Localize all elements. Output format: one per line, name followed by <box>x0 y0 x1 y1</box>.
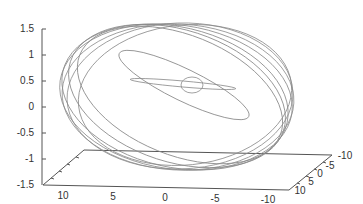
z-tick-label: 0 <box>28 101 34 112</box>
y-tick-label: -5 <box>326 160 335 171</box>
z-tick-label: -1.5 <box>17 179 35 190</box>
curve-loop <box>112 39 255 131</box>
x-tick-label: -10 <box>261 194 276 204</box>
z-tick-label: 1.5 <box>20 23 34 34</box>
y-tick-label: 10 <box>294 185 306 196</box>
y-axis-labels: 10 5 0 -5 -10 <box>294 150 352 196</box>
curve-loop <box>181 77 203 93</box>
x-axis-labels: 10 5 0 -5 -10 <box>57 190 275 204</box>
z-tick-label: 1 <box>28 49 34 60</box>
curve-loop <box>50 0 304 193</box>
x-tick-label: -5 <box>211 193 220 204</box>
x-tick-label: 0 <box>162 192 168 203</box>
x-tick-label: 10 <box>57 190 69 201</box>
3d-plot: 1.5 1 0.5 0 -0.5 -1 -1.5 10 5 0 -5 -10 1… <box>0 0 363 204</box>
y-tick-label: 5 <box>308 176 314 187</box>
curve-loop <box>50 9 302 184</box>
x-tick-label: 5 <box>110 191 116 202</box>
curve-loop <box>47 3 303 191</box>
parametric-curve <box>47 0 304 193</box>
z-axis: 1.5 1 0.5 0 -0.5 -1 -1.5 <box>17 23 46 190</box>
z-tick-label: -1 <box>25 153 34 164</box>
z-tick-label: -0.5 <box>17 127 35 138</box>
y-tick-label: -10 <box>338 150 353 161</box>
y-tick-label: 0 <box>317 168 323 179</box>
z-tick-label: 0.5 <box>20 75 34 86</box>
